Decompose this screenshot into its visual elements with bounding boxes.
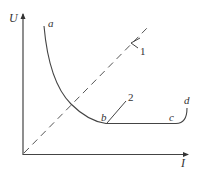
point-label-a: a xyxy=(48,17,54,29)
volt-ampere-diagram: U I a b c d 1 2 xyxy=(0,0,200,177)
callout-label-1: 1 xyxy=(140,45,146,57)
callout-leader-2 xyxy=(107,101,126,123)
point-label-c: c xyxy=(169,111,174,123)
dashed-line-1 xyxy=(24,25,150,153)
x-axis-label: I xyxy=(180,156,186,170)
point-label-d: d xyxy=(184,94,190,106)
callout-label-2: 2 xyxy=(128,91,134,103)
characteristic-curve xyxy=(44,26,187,124)
y-axis-label: U xyxy=(9,11,19,25)
point-label-b: b xyxy=(101,111,107,123)
